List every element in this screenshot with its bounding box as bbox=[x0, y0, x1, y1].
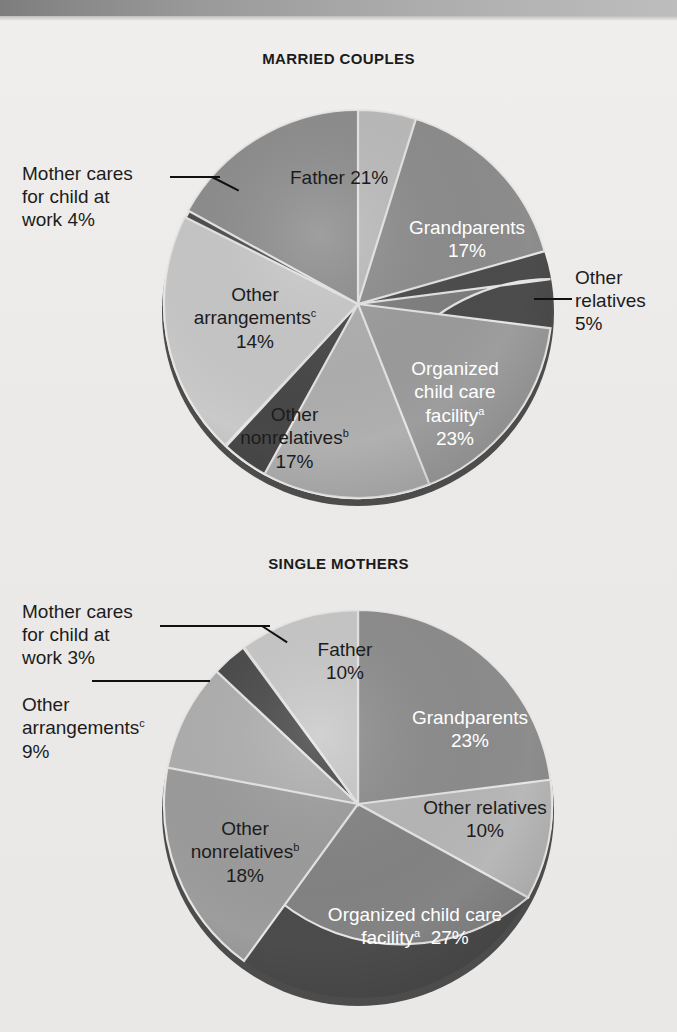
leader-line-other-relatives-married bbox=[534, 298, 572, 300]
nonrelatives-text-single: Other nonrelatives bbox=[191, 818, 293, 862]
pie-label-other-relatives-single: Other relatives 10% bbox=[400, 796, 570, 842]
organized-text-single: Organized child care bbox=[328, 904, 502, 925]
arrangements-pct-single: 9% bbox=[22, 740, 145, 763]
page-canvas: MARRIED COUPLES bbox=[0, 0, 677, 1032]
pie-label-mother-cares-married: Mother cares for child at work 4% bbox=[22, 162, 133, 232]
leader-line-other-arrangements-single bbox=[92, 680, 210, 682]
nonrelatives-text-married: Other nonrelatives bbox=[240, 404, 342, 448]
organized-second-line-single: facilitya 27% bbox=[270, 926, 560, 949]
footnote-c-single: c bbox=[139, 717, 145, 729]
pie-label-other-relatives-married: Other relatives 5% bbox=[575, 266, 646, 336]
pie-label-grandparents-married: Grandparents 17% bbox=[392, 216, 542, 262]
chart-title-single-mothers: SINGLE MOTHERS bbox=[0, 555, 677, 572]
organized-pct-married: 23% bbox=[375, 427, 535, 450]
pie-chart-married-couples: Father 21% Grandparents 17% Other relati… bbox=[0, 98, 677, 518]
arrangements-pct-married: 14% bbox=[165, 330, 345, 353]
pie-label-father-married: Father 21% bbox=[290, 166, 388, 189]
nonrelatives-pct-single: 18% bbox=[150, 864, 340, 887]
organized-text-married: Organized child care facility bbox=[411, 358, 499, 425]
pie-label-other-arrangements-married: Other arrangementsc 14% bbox=[165, 260, 345, 376]
arrangements-text-single: Other arrangements bbox=[22, 694, 139, 738]
pie-label-other-arrangements-single: Other arrangementsc 9% bbox=[22, 670, 145, 786]
pie-chart-single-mothers: Father 10% Grandparents 23% Other relati… bbox=[0, 598, 677, 1018]
arrangements-text-married: Other arrangements bbox=[194, 284, 311, 328]
pie-label-grandparents-single: Grandparents 23% bbox=[390, 706, 550, 752]
pie-label-organized-married: Organized child care facilitya 23% bbox=[375, 334, 535, 473]
leader-line-mother-cares-single bbox=[160, 625, 270, 627]
footnote-b-single: b bbox=[293, 841, 299, 853]
pie-label-other-nonrelatives-married: Other nonrelativesb 17% bbox=[207, 380, 382, 496]
organized-facility-word-single: facility bbox=[361, 927, 414, 948]
chart-title-married-couples: MARRIED COUPLES bbox=[0, 50, 677, 67]
scan-edge-shadow bbox=[0, 16, 677, 21]
pie-label-mother-cares-single: Mother cares for child at work 3% bbox=[22, 600, 133, 670]
scan-edge-bar bbox=[0, 0, 677, 16]
organized-pct-single: 27% bbox=[431, 927, 469, 948]
footnote-a-single: a bbox=[414, 927, 420, 939]
footnote-c-married: c bbox=[311, 307, 317, 319]
pie-label-father-single: Father 10% bbox=[290, 638, 400, 684]
nonrelatives-pct-married: 17% bbox=[207, 450, 382, 473]
pie-label-other-nonrelatives-single: Other nonrelativesb 18% bbox=[150, 794, 340, 910]
footnote-b-married: b bbox=[343, 427, 349, 439]
footnote-a-married: a bbox=[478, 404, 484, 416]
